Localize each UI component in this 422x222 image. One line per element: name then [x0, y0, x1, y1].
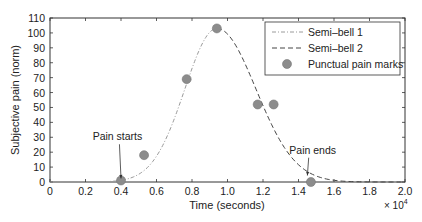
pain-ends-label: Pain ends	[289, 144, 336, 156]
y-axis-label: Subjective pain (norm)	[9, 45, 21, 155]
pain-mark-point	[306, 178, 315, 187]
x-tick-label: 0.4	[114, 185, 129, 197]
y-tick-label: 10	[33, 161, 45, 173]
y-tick-label: 20	[33, 146, 45, 158]
x-tick-label: 2.0	[398, 185, 413, 197]
x-tick-label: 0.8	[185, 185, 200, 197]
pain-starts-label: Pain starts	[93, 130, 143, 142]
x-multiplier: × 104	[384, 198, 408, 211]
x-tick-label: 1.2	[256, 185, 271, 197]
annotations: Pain startsPain ends	[93, 130, 336, 178]
annotation-arrow	[119, 144, 121, 178]
y-tick-label: 40	[33, 116, 45, 128]
x-multiplier-exp: 4	[404, 198, 408, 205]
y-tick-label: 50	[33, 101, 45, 113]
y-tick-label: 30	[33, 131, 45, 143]
legend-marker-icon	[283, 60, 292, 69]
y-tick-label: 60	[33, 87, 45, 99]
pain-mark-point	[269, 100, 278, 109]
legend: Semi–bell 1Semi–bell 2Punctual pain mark…	[265, 22, 403, 75]
y-tick-label: 90	[33, 42, 45, 54]
y-tick-label: 80	[33, 57, 45, 69]
pain-mark-point	[140, 151, 149, 160]
legend-entry-label: Punctual pain marks	[308, 58, 403, 70]
pain-mark-point	[212, 24, 221, 33]
legend-entry-label: Semi–bell 2	[308, 42, 363, 54]
x-axis-label: Time (seconds)	[189, 199, 264, 211]
x-tick-label: 0	[47, 185, 53, 197]
arrow-head-icon	[306, 172, 309, 176]
pain-mark-point	[182, 75, 191, 84]
y-tick-label: 0	[39, 176, 45, 188]
y-tick-label: 100	[27, 27, 45, 39]
pain-mark-point	[253, 100, 262, 109]
x-tick-label: 1.4	[291, 185, 306, 197]
x-tick-label: 0.2	[78, 185, 93, 197]
legend-entry-label: Semi–bell 1	[308, 26, 363, 38]
semi-bell-1-curve	[50, 28, 217, 182]
pain-chart: 00.20.40.60.81.01.21.41.61.82.0010203040…	[0, 0, 422, 222]
x-tick-label: 1.8	[362, 185, 377, 197]
y-tick-label: 70	[33, 72, 45, 84]
x-tick-label: 1.0	[220, 185, 235, 197]
y-tick-label: 110	[28, 12, 45, 24]
x-tick-label: 0.6	[149, 185, 164, 197]
x-tick-label: 1.6	[327, 185, 342, 197]
x-multiplier-base: × 10	[384, 200, 404, 211]
